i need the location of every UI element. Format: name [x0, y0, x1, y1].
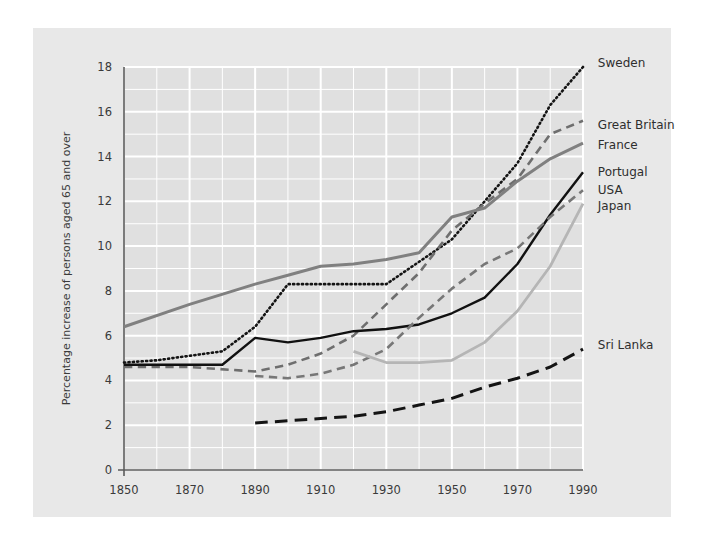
x-tick-label: 1970 — [503, 483, 532, 497]
y-tick-label: 12 — [97, 194, 112, 208]
x-tick-label: 1930 — [372, 483, 401, 497]
x-tick-label: 1950 — [437, 483, 466, 497]
series-label-sweden: Sweden — [598, 56, 645, 70]
x-tick-label: 1990 — [568, 483, 597, 497]
y-axis-title-text: Percentage increase of persons aged 65 a… — [60, 131, 73, 405]
y-tick-label: 2 — [105, 418, 112, 432]
y-tick-label: 8 — [105, 284, 112, 298]
y-axis-title: Percentage increase of persons aged 65 a… — [60, 131, 73, 405]
x-tick-label: 1870 — [175, 483, 204, 497]
series-label-japan: Japan — [597, 199, 631, 213]
y-tick-label: 18 — [97, 60, 112, 74]
series-label-great-britain: Great Britain — [598, 118, 675, 132]
series-label-sri-lanka: Sri Lanka — [598, 338, 653, 352]
line-chart: 0246810121416181850187018901910193019501… — [0, 0, 705, 545]
y-tick-label: 0 — [105, 463, 112, 477]
series-end-labels: SwedenGreat BritainFrancePortugalUSAJapa… — [597, 56, 675, 352]
y-tick-label: 6 — [105, 329, 112, 343]
y-tick-label: 16 — [97, 105, 112, 119]
series-label-portugal: Portugal — [598, 165, 648, 179]
x-tick-label: 1850 — [109, 483, 138, 497]
y-tick-label: 14 — [97, 150, 112, 164]
series-label-france: France — [598, 138, 638, 152]
x-tick-label: 1890 — [241, 483, 270, 497]
x-tick-label: 1910 — [306, 483, 335, 497]
y-tick-label: 10 — [97, 239, 112, 253]
series-label-usa: USA — [598, 183, 624, 197]
chart-canvas: 0246810121416181850187018901910193019501… — [0, 0, 705, 545]
y-tick-label: 4 — [105, 373, 112, 387]
